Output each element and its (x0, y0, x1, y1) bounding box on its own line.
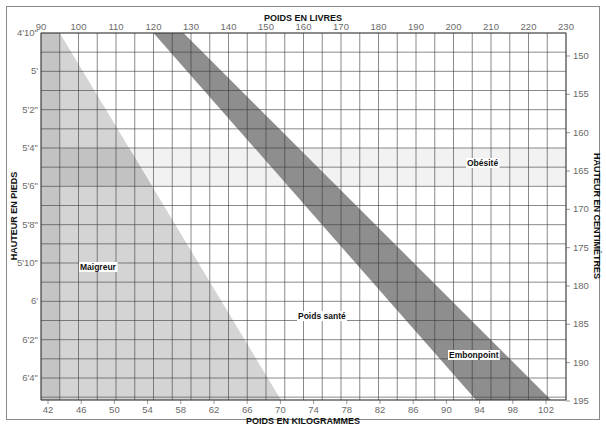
x-top-tick: 110 (108, 21, 123, 32)
zone-label-healthy: Poids santé (298, 311, 346, 321)
zone-underweight-strip (41, 33, 60, 400)
x-bottom-tick: 42 (43, 404, 54, 415)
y-left-tick: 6'4" (22, 372, 38, 383)
x-top-tick: 190 (408, 21, 424, 32)
y-left-tick: 5'4" (22, 142, 38, 153)
y-left-tick: 5'2" (22, 104, 38, 115)
x-bottom-title: POIDS EN KILOGRAMMES (246, 416, 360, 426)
y-right-tick: 185 (573, 318, 589, 329)
y-left-title: HAUTEUR EN PIEDS (9, 172, 19, 261)
y-left-tick: 6' (31, 295, 38, 306)
bmi-chart: 9010011012013014015016017018019020021022… (0, 0, 606, 443)
x-bottom-tick: 94 (474, 404, 485, 415)
x-top-tick: 230 (558, 21, 574, 32)
y-left-tick: 5'10" (17, 257, 38, 268)
x-top-title: POIDS EN LIVRES (264, 13, 342, 23)
x-bottom-tick: 90 (441, 404, 452, 415)
x-top-tick: 120 (146, 21, 162, 32)
y-right-tick: 180 (573, 280, 589, 291)
x-bottom-tick: 50 (109, 404, 120, 415)
x-bottom-tick: 82 (375, 404, 386, 415)
x-bottom-tick: 98 (508, 404, 519, 415)
x-top-tick: 210 (483, 21, 499, 32)
x-bottom-tick: 102 (538, 404, 554, 415)
x-bottom-tick: 86 (408, 404, 419, 415)
x-bottom-tick: 70 (275, 404, 286, 415)
x-top-tick: 180 (371, 21, 387, 32)
x-top-tick: 220 (521, 21, 537, 32)
y-left-tick: 5'8" (22, 219, 38, 230)
x-bottom-tick: 62 (209, 404, 220, 415)
x-top-tick: 130 (183, 21, 199, 32)
y-right-title: HAUTEUR EN CENTIMÈTRES (592, 153, 602, 279)
y-right-tick: 150 (573, 50, 589, 61)
y-right-tick: 155 (573, 88, 589, 99)
x-top-tick: 100 (71, 21, 87, 32)
y-right-tick: 165 (573, 165, 589, 176)
zone-label-overweight: Embonpoint (449, 350, 499, 360)
y-left-tick: 4'10" (17, 27, 38, 38)
x-bottom-tick: 46 (76, 404, 87, 415)
y-right-tick: 170 (573, 203, 589, 214)
x-bottom-tick: 66 (242, 404, 253, 415)
y-left-tick: 5' (31, 65, 38, 76)
x-bottom-tick: 74 (308, 404, 319, 415)
zone-label-underweight: Maigreur (80, 262, 117, 272)
y-right-tick: 195 (573, 395, 589, 406)
y-left-tick: 6'2" (22, 334, 38, 345)
x-top-tick: 200 (446, 21, 462, 32)
x-bottom-tick: 58 (176, 404, 187, 415)
x-top-tick: 140 (221, 21, 237, 32)
y-right-tick: 175 (573, 242, 589, 253)
y-right-tick: 190 (573, 357, 589, 368)
y-right-tick: 160 (573, 127, 589, 138)
x-bottom-tick: 54 (142, 404, 153, 415)
y-left-tick: 5'6" (22, 180, 38, 191)
zone-label-obese: Obésité (467, 158, 498, 168)
x-bottom-tick: 78 (342, 404, 353, 415)
